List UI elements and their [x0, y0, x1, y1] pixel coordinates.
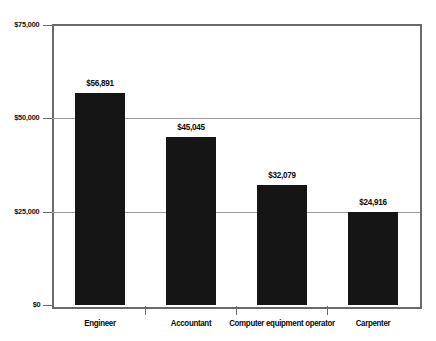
bar: [348, 212, 398, 305]
bar-value-label: $32,079: [241, 170, 322, 180]
bar-chart: $0$25,000$50,000$75,000 $56,891$45,045$3…: [0, 0, 436, 341]
bar: [75, 93, 125, 305]
bars-group: [54, 26, 418, 305]
bar: [257, 185, 307, 305]
bar-value-label: $45,045: [150, 122, 231, 132]
y-axis-tick: [43, 25, 52, 26]
x-axis-tick: [145, 306, 146, 315]
y-axis-tick: [43, 118, 52, 119]
x-axis-category-label: Carpenter: [311, 318, 434, 328]
bar-value-label: $56,891: [59, 78, 140, 88]
y-axis-tick-label: $75,000: [15, 20, 40, 29]
x-axis-tick: [327, 306, 328, 315]
bar: [166, 137, 216, 305]
y-axis-tick-label: $0: [32, 300, 40, 309]
x-axis-tick: [236, 306, 237, 315]
y-axis-tick: [43, 305, 52, 306]
bar-value-label: $24,916: [332, 197, 413, 207]
y-axis-tick-label: $50,000: [15, 113, 40, 122]
y-axis-tick: [43, 212, 52, 213]
y-axis-tick-label: $25,000: [15, 207, 40, 216]
